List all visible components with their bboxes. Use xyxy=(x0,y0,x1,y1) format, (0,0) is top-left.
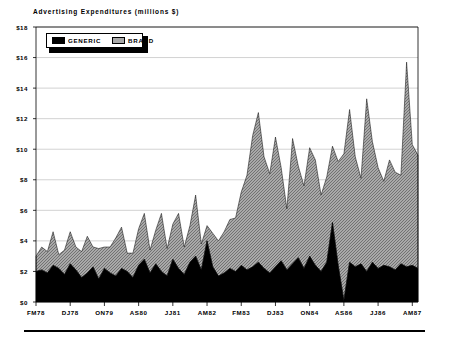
x-axis-tick-label: ON84 xyxy=(300,309,318,316)
legend-entry-generic: GENERIC xyxy=(52,37,101,44)
x-axis-tick-label: AS80 xyxy=(130,309,148,316)
brand-swatch-icon xyxy=(112,37,125,44)
x-axis-tick-label: DJ78 xyxy=(62,309,79,316)
generic-swatch-icon xyxy=(52,37,65,44)
x-axis-tick-label: AM82 xyxy=(198,309,217,316)
legend-label-brand: BRAND xyxy=(128,37,154,44)
advertising-expenditures-chart: Advertising Expenditures (millions $) $0… xyxy=(0,0,451,342)
x-axis-tick-label: JJ81 xyxy=(165,309,181,316)
y-axis-tick-label: $16 xyxy=(6,54,28,61)
y-axis-tick-label: $4 xyxy=(6,237,28,244)
x-axis-tick-label: FM78 xyxy=(27,309,45,316)
y-axis-tick-label: $18 xyxy=(6,24,28,31)
y-axis-tick-label: $6 xyxy=(6,207,28,214)
x-axis-tick-label: AS86 xyxy=(335,309,353,316)
chart-legend: GENERIC BRAND xyxy=(46,33,143,48)
x-axis-tick-label: AM87 xyxy=(403,309,422,316)
x-axis-tick-label: FM83 xyxy=(232,309,250,316)
x-axis-tick-label: ON79 xyxy=(95,309,113,316)
y-axis-tick-label: $8 xyxy=(6,176,28,183)
bottom-rule-divider xyxy=(24,330,425,332)
y-axis-tick-label: $14 xyxy=(6,85,28,92)
y-axis-tick-label: $0 xyxy=(6,299,28,306)
series-areas xyxy=(36,62,418,302)
y-axis-tick-label: $10 xyxy=(6,146,28,153)
legend-entry-brand: BRAND xyxy=(112,37,154,44)
legend-label-generic: GENERIC xyxy=(68,37,101,44)
x-axis-tick-label: DJ83 xyxy=(267,309,284,316)
x-axis-tick-label: JJ86 xyxy=(370,309,386,316)
y-axis-tick-label: $2 xyxy=(6,268,28,275)
y-axis-tick-label: $12 xyxy=(6,115,28,122)
